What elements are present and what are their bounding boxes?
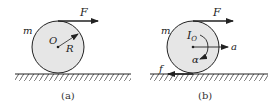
force-label: F xyxy=(212,6,221,19)
ground-hatch xyxy=(150,74,268,81)
mass-label: m xyxy=(23,25,32,36)
force-label: F xyxy=(79,6,88,19)
alpha-label: α xyxy=(192,54,199,65)
acceleration-label: a xyxy=(231,41,237,52)
panel-a: F m O R (a) xyxy=(15,6,131,101)
panel-b: F m IO a α f (b) xyxy=(150,6,268,101)
ground-hatch xyxy=(15,74,131,81)
caption-a: (a) xyxy=(61,90,75,101)
caption-b: (b) xyxy=(198,90,212,101)
rolling-disk-diagram: F m O R (a) F m IO a α f (b) xyxy=(0,0,280,106)
friction-label: f xyxy=(158,63,165,74)
radius-label: R xyxy=(65,43,74,54)
mass-label: m xyxy=(161,25,170,36)
center-label: O xyxy=(49,35,57,46)
